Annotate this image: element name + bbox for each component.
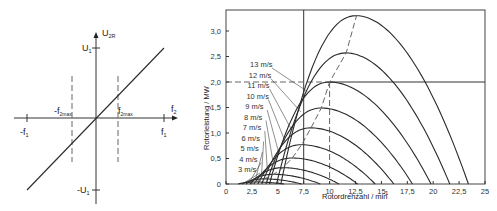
- x-tick-label: 15: [377, 187, 385, 196]
- power-curve: [242, 179, 302, 184]
- wind-speed-label: 12 m/s: [249, 71, 272, 80]
- x-tick-label: 25: [481, 187, 489, 196]
- wind-speed-label: 4 m/s: [239, 155, 258, 164]
- power-curve: [254, 158, 358, 184]
- plot-area: 3 m/s4 m/s5 m/s6 m/s7 m/s8 m/s9 m/s10 m/…: [226, 10, 485, 184]
- x-tick-label: 10: [325, 187, 333, 196]
- x-tick-label: 5: [276, 187, 280, 196]
- voltage-frequency-diagram: U2R f2 U1 -U1 -f1 f1 -f2max f2max: [0, 0, 210, 211]
- svg-text:f2max: f2max: [118, 106, 133, 117]
- wind-speed-label: 13 m/s: [250, 60, 273, 69]
- axis-ticks: 02,557,51012,51517,52022,52500,51,01,52,…: [211, 27, 490, 197]
- x-tick-label: 0: [224, 187, 228, 196]
- power-curve: [266, 108, 413, 184]
- x-tick-label: 20: [429, 187, 437, 196]
- x-tick-label: 7,5: [298, 187, 308, 196]
- y-tick-label: 2,0: [211, 78, 221, 87]
- power-curve: [246, 174, 320, 184]
- power-curve: [258, 145, 375, 184]
- y-axis-arrow-icon: [94, 32, 99, 38]
- y-tick-label: 3,0: [211, 27, 221, 36]
- x-tick-label: 12,5: [348, 187, 363, 196]
- wind-speed-label: 6 m/s: [242, 134, 261, 143]
- svg-text:f2: f2: [171, 104, 177, 115]
- power-curve: [281, 16, 469, 184]
- y-tick-label: 1,5: [211, 103, 221, 112]
- power-curve: [250, 168, 339, 184]
- x-axis-arrow-icon: [172, 116, 178, 121]
- y-tick-label: 0: [217, 180, 221, 189]
- wind-speed-label: 11 m/s: [248, 81, 270, 90]
- wind-speed-label: 5 m/s: [240, 144, 259, 153]
- wind-speed-label: 7 m/s: [243, 123, 262, 132]
- wind-speed-label: 10 m/s: [246, 92, 269, 101]
- power-curve: [270, 82, 432, 184]
- power-curve: [277, 53, 450, 184]
- power-curve: [262, 128, 394, 184]
- svg-text:U2R: U2R: [102, 28, 116, 39]
- wind-speed-label: 3 m/s: [238, 165, 257, 174]
- svg-text:f1: f1: [161, 127, 167, 138]
- x-axis-label: Rotordrehzahl / min: [322, 192, 387, 201]
- x-tick-label: 2,5: [247, 187, 257, 196]
- wind-speed-label: 8 m/s: [244, 113, 263, 122]
- power-curve: [238, 182, 284, 184]
- y-tick-label: 1,0: [211, 129, 221, 138]
- x-tick-label: 17,5: [400, 187, 415, 196]
- svg-text:U1: U1: [82, 43, 92, 54]
- y-tick-label: 0,5: [211, 154, 221, 163]
- svg-text:-U1: -U1: [77, 185, 90, 196]
- optimal-power-curve: [255, 16, 357, 182]
- svg-text:-f1: -f1: [20, 127, 29, 138]
- svg-text:-f2max: -f2max: [54, 106, 72, 117]
- y-tick-label: 2,5: [211, 52, 221, 61]
- plot-frame: [226, 10, 485, 184]
- x-axis-label-exponent: -1: [383, 190, 389, 196]
- wind-speed-label: 9 m/s: [245, 102, 264, 111]
- x-tick-label: 22,5: [452, 187, 467, 196]
